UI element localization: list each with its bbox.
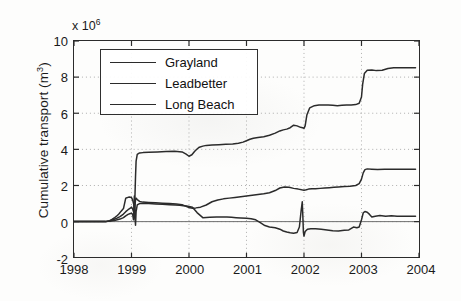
y-tick-label: 8 (61, 70, 68, 85)
legend-swatch-leadbetter (110, 83, 156, 84)
legend-item-long-beach: Long Beach (101, 93, 257, 115)
legend-item-grayland: Grayland (101, 51, 257, 73)
legend-item-leadbetter: Leadbetter (101, 72, 257, 94)
y-tick-label: 4 (61, 143, 68, 158)
legend-label-long-beach: Long Beach (165, 98, 234, 111)
y-axis-label: Cumulative transport (m3) (35, 15, 52, 265)
x-tick-label: 1998 (60, 262, 89, 277)
x-tick-label: 2002 (291, 262, 320, 277)
y-tick-label: 0 (61, 215, 68, 230)
legend-swatch-grayland (110, 62, 156, 63)
legend-label-leadbetter: Leadbetter (165, 77, 227, 90)
legend-swatch-long-beach (110, 104, 156, 105)
x-tick-label: 2004 (407, 262, 436, 277)
chart-legend: Grayland Leadbetter Long Beach (100, 49, 258, 115)
legend-label-grayland: Grayland (165, 56, 218, 69)
y-axis-exponent-label: x 106 (72, 17, 100, 33)
x-tick-label: 2003 (349, 262, 378, 277)
x-tick-label: 1999 (117, 262, 146, 277)
y-tick-label: 2 (61, 179, 68, 194)
y-tick-label: 10 (54, 34, 68, 49)
y-tick-label: 6 (61, 106, 68, 121)
chart-canvas: Cumulative transport (m3) x 106 -2024681… (0, 0, 461, 301)
x-tick-label: 2000 (175, 262, 204, 277)
plot-area: -20246810 1998199920002001200220032004 G… (73, 40, 420, 258)
x-tick-label: 2001 (233, 262, 262, 277)
series-line-leadbetter (74, 169, 416, 222)
